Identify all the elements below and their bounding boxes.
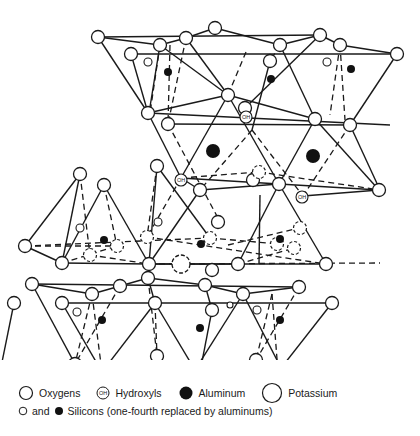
legend-hydroxyls: OH Hydroxyls bbox=[96, 386, 161, 400]
legend-and: and bbox=[32, 405, 50, 417]
legend-oxygens: Oxygens bbox=[18, 385, 80, 401]
legend-hydroxyls-label: Hydroxyls bbox=[115, 387, 161, 399]
hydroxyl-icon: OH bbox=[96, 386, 110, 400]
legend-row-1: Oxygens OH Hydroxyls Aluminum Potassium bbox=[18, 384, 418, 402]
legend-potassium-label: Potassium bbox=[288, 387, 337, 399]
oxygen-icon bbox=[18, 385, 34, 401]
legend-oxygens-label: Oxygens bbox=[39, 387, 80, 399]
aluminum-icon bbox=[178, 385, 194, 401]
svg-text:OH: OH bbox=[298, 194, 306, 200]
svg-text:OH: OH bbox=[242, 114, 250, 120]
silicon-solid-icon bbox=[54, 406, 64, 416]
svg-text:OH: OH bbox=[99, 390, 107, 396]
svg-text:OH: OH bbox=[177, 177, 185, 183]
legend: Oxygens OH Hydroxyls Aluminum Potassium … bbox=[18, 384, 418, 420]
potassium-icon bbox=[261, 382, 283, 404]
legend-silicons-label: Silicons (one-fourth replaced by aluminu… bbox=[68, 405, 273, 417]
legend-row-2: and Silicons (one-fourth replaced by alu… bbox=[18, 402, 418, 420]
silicon-open-icon bbox=[18, 406, 28, 416]
legend-aluminum-label: Aluminum bbox=[199, 387, 246, 399]
legend-potassium: Potassium bbox=[261, 382, 337, 404]
mica-structure-diagram: OH OH OH bbox=[0, 0, 420, 360]
legend-aluminum: Aluminum bbox=[178, 385, 246, 401]
